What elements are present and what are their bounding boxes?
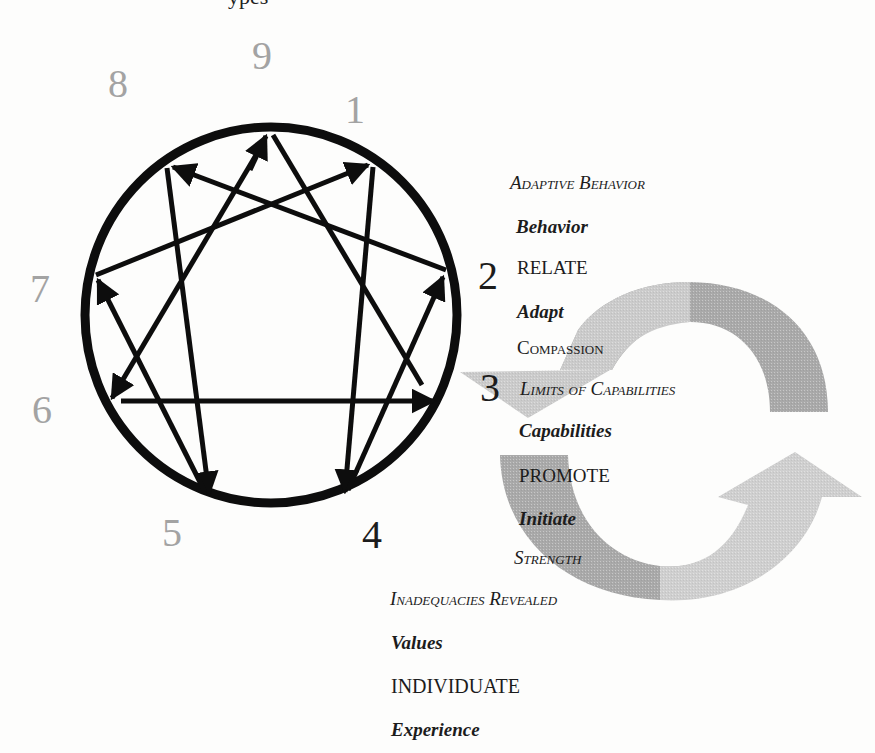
arrow-9-to-6	[112, 140, 265, 398]
label-relate: RELATE	[517, 258, 588, 277]
label-capabilities: Capabilities	[519, 421, 612, 440]
point-8-label: 8	[108, 64, 128, 104]
arrow-to-9	[250, 136, 266, 170]
label-values: Values	[391, 633, 443, 652]
label-experience: Experience	[391, 720, 480, 739]
enneagram-circle	[85, 127, 457, 503]
label-individuate: INDIVIDUATE	[391, 676, 520, 696]
label-adaptive-behavior: Adaptive Behavior	[510, 173, 645, 192]
point-6-label: 6	[32, 390, 52, 430]
label-adapt: Adapt	[517, 302, 563, 321]
point-7-label: 7	[30, 269, 50, 309]
label-compassion: Compassion	[517, 338, 604, 357]
point-2-label: 2	[478, 256, 498, 296]
point-1-label: 1	[345, 90, 365, 130]
label-promote: PROMOTE	[519, 466, 610, 485]
point-4-label: 4	[362, 515, 382, 555]
label-limits-of-capabilities: Limits of Capabilities	[520, 379, 675, 398]
label-initiate: Initiate	[519, 509, 576, 528]
point-5-label: 5	[162, 513, 182, 553]
label-behavior: Behavior	[516, 217, 588, 236]
arrow-8-to-5	[167, 168, 209, 494]
point-3-label: 3	[480, 368, 500, 408]
label-inadequacies-revealed: Inadequacies Revealed	[390, 589, 557, 608]
label-strength: Strength	[514, 548, 581, 567]
point-9-label: 9	[252, 36, 272, 76]
